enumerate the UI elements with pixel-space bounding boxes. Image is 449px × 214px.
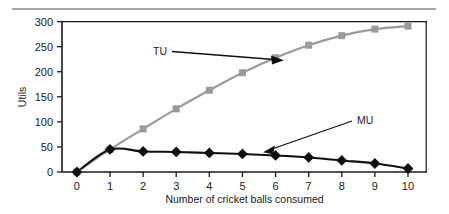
- x-tick-label: 2: [140, 180, 146, 192]
- x-axis-tick-labels: 012345678910: [74, 180, 414, 192]
- data-point-marker: [404, 23, 411, 30]
- data-point-marker: [371, 26, 378, 33]
- arrow-line-mu: [272, 121, 352, 149]
- chart-figure: 050100150200250300 012345678910 TU MU Nu…: [0, 0, 449, 214]
- arrow-line-tu: [172, 52, 274, 60]
- data-point-marker: [336, 155, 347, 166]
- y-axis-tick-labels: 050100150200250300: [35, 16, 53, 178]
- data-point-marker: [204, 148, 215, 159]
- x-tick-label: 3: [173, 180, 179, 192]
- utility-chart: 050100150200250300 012345678910 TU MU Nu…: [0, 0, 449, 214]
- y-tick-label: 200: [35, 66, 53, 78]
- data-point-marker: [171, 147, 182, 158]
- y-tick-label: 100: [35, 116, 53, 128]
- y-axis-title: Utils: [16, 87, 28, 107]
- x-tick-label: 1: [107, 180, 113, 192]
- x-axis-title: Number of cricket balls consumed: [165, 193, 323, 205]
- data-point-marker: [369, 158, 380, 169]
- data-point-marker: [237, 149, 248, 160]
- x-tick-label: 5: [239, 180, 245, 192]
- data-point-marker: [138, 146, 149, 157]
- data-point-marker: [105, 144, 116, 155]
- data-point-marker: [303, 152, 314, 163]
- data-point-marker: [338, 32, 345, 39]
- x-tick-label: 8: [339, 180, 345, 192]
- y-tick-label: 250: [35, 41, 53, 53]
- y-tick-label: 50: [41, 141, 53, 153]
- x-tick-label: 9: [372, 180, 378, 192]
- x-tick-label: 6: [272, 180, 278, 192]
- y-tick-label: 0: [47, 166, 53, 178]
- x-tick-label: 4: [206, 180, 212, 192]
- data-point-marker: [206, 87, 213, 94]
- y-tick-label: 300: [35, 16, 53, 28]
- annotation-mu: MU: [263, 114, 373, 154]
- series-label-tu: TU: [153, 45, 167, 57]
- y-tick-label: 150: [35, 91, 53, 103]
- arrow-head-mu: [263, 146, 275, 155]
- x-tick-label: 0: [74, 180, 80, 192]
- series-label-mu: MU: [357, 114, 373, 126]
- x-tick-label: 10: [402, 180, 414, 192]
- data-point-marker: [239, 69, 246, 76]
- x-tick-label: 7: [306, 180, 312, 192]
- data-point-marker: [173, 105, 180, 112]
- data-point-marker: [140, 125, 147, 132]
- data-point-marker: [305, 42, 312, 49]
